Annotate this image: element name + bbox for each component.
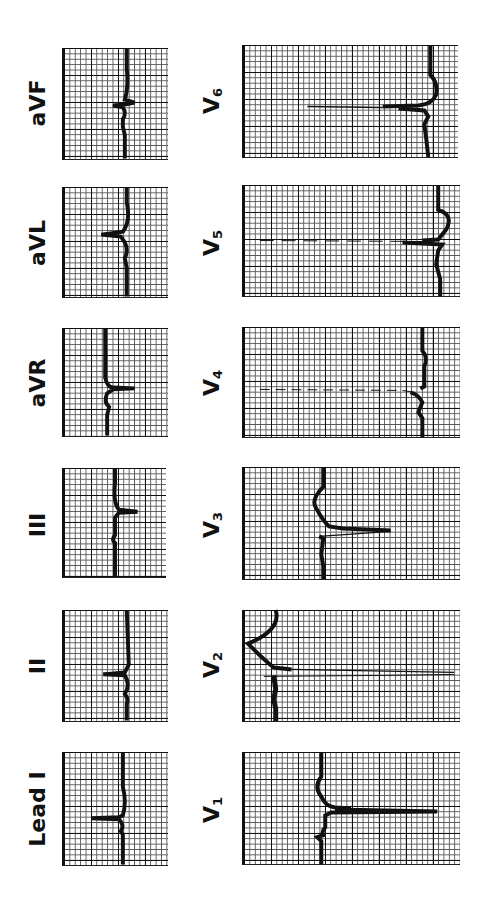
ecg-panel-lead-v5 (242, 185, 460, 297)
ecg-panel-lead-iii (62, 468, 166, 578)
ecg-panel-lead-avl (62, 187, 168, 298)
ecg-trace-lead-avl (64, 187, 168, 297)
ecg-trace-lead-ii (64, 610, 168, 721)
ecg-panel-lead-v1 (242, 752, 460, 865)
ecg-panel-lead-v3 (242, 467, 460, 580)
label-lead-i: Lead I (25, 754, 51, 864)
ecg-trace-lead-v6 (244, 45, 458, 157)
label-lead-v5: V5 (199, 188, 225, 298)
label-lead-v1: V1 (199, 755, 225, 865)
ecg-trace-lead-i (64, 752, 168, 865)
label-lead-v2: V2 (199, 610, 225, 720)
ecg-trace-lead-iii (64, 468, 166, 577)
ecg-panel-lead-v2 (242, 610, 460, 722)
ecg-trace-lead-avr (64, 328, 168, 436)
label-lead-avr: aVR (25, 328, 51, 438)
label-lead-avf: aVF (25, 48, 51, 158)
label-lead-avl: aVL (25, 188, 51, 298)
ecg-panel-lead-avr (62, 328, 168, 437)
ecg-panel-lead-ii (62, 610, 168, 722)
label-lead-v4: V4 (199, 328, 225, 438)
ecg-trace-lead-avf (64, 48, 168, 159)
ecg-trace-lead-v5 (244, 185, 460, 296)
ecg-trace-lead-v2 (244, 610, 460, 721)
ecg-panel-lead-avf (62, 48, 168, 160)
ecg-trace-lead-v4 (244, 327, 460, 437)
ecg-panel-lead-v6 (242, 45, 458, 158)
ecg-panel-lead-v4 (242, 327, 460, 438)
ecg-trace-lead-v1 (244, 752, 460, 864)
ecg-panel-lead-i (62, 752, 168, 866)
label-lead-iii: III (25, 470, 51, 580)
label-lead-v6: V6 (199, 46, 225, 156)
ecg-trace-lead-v3 (244, 467, 460, 579)
label-lead-ii: II (25, 611, 51, 721)
label-lead-v3: V3 (199, 470, 225, 580)
